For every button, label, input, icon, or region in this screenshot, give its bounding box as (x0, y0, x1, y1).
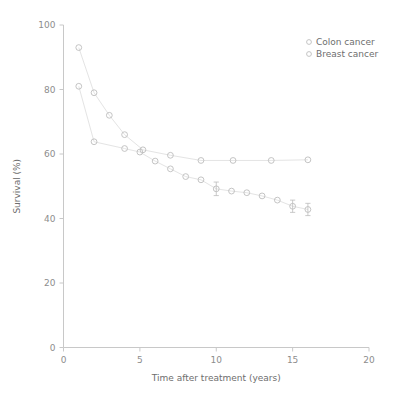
series-points (76, 45, 311, 216)
series-line-1 (79, 86, 308, 209)
chart-legend: Colon cancerBreast cancer (307, 37, 379, 59)
survival-chart-figure: 02040608010005101520 Colon cancerBreast … (0, 0, 397, 399)
series-line-0 (79, 48, 308, 161)
legend-label-0: Colon cancer (316, 37, 375, 47)
legend-marker-1 (307, 52, 312, 57)
legend-marker-0 (307, 40, 312, 45)
x-tick-label: 0 (61, 355, 67, 365)
legend-label-1: Breast cancer (316, 49, 378, 59)
y-tick-label: 0 (50, 343, 56, 353)
y-axis-title: Survival (%) (12, 159, 22, 214)
y-tick-label: 40 (44, 214, 56, 224)
y-tick-label: 20 (44, 278, 56, 288)
series-lines (79, 48, 308, 210)
plot-canvas: 02040608010005101520 Colon cancerBreast … (0, 0, 397, 399)
x-tick-label: 15 (287, 355, 298, 365)
x-axis-title: Time after treatment (years) (151, 373, 281, 383)
x-tick-label: 20 (363, 355, 375, 365)
x-tick-label: 10 (211, 355, 223, 365)
x-tick-label: 5 (137, 355, 143, 365)
y-tick-label: 80 (44, 85, 56, 95)
y-tick-label: 60 (44, 149, 56, 159)
y-tick-label: 100 (38, 20, 55, 30)
axes: 02040608010005101520 (38, 20, 375, 364)
